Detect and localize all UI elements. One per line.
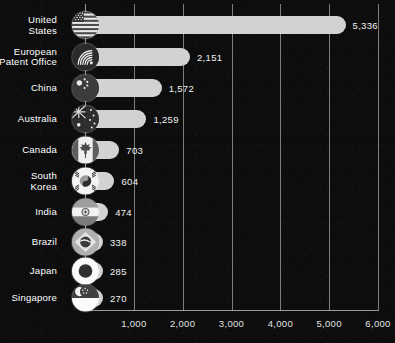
table-row: SouthKorea 604: [0, 166, 395, 196]
flag-japan-icon: [72, 258, 99, 285]
bar: [85, 48, 190, 66]
table-row: Japan 285: [0, 256, 395, 286]
table-row: UnitedStates 5,336: [0, 10, 395, 40]
flag-china-icon: [72, 75, 99, 102]
x-tick-label: 1,000: [121, 318, 146, 329]
flag-australia-icon: [72, 106, 99, 133]
table-row: Brazil 338: [0, 227, 395, 257]
value-label: 1,259: [153, 114, 178, 125]
x-tick-label: 2,000: [170, 318, 195, 329]
x-tick-label: 3,000: [219, 318, 244, 329]
flag-brazil-icon: [72, 229, 99, 256]
table-row: China 1,572: [0, 73, 395, 103]
category-label: SouthKorea: [0, 171, 57, 192]
value-label: 270: [110, 293, 127, 304]
value-label: 2,151: [197, 51, 222, 62]
category-label: Brazil: [0, 237, 57, 248]
category-label: EuropeanPatent Office: [0, 46, 57, 67]
table-row: India 474: [0, 197, 395, 227]
horizontal-bar-chart: 1,0002,0003,0004,0005,0006,000 UnitedSta…: [0, 0, 395, 343]
flag-united-states-icon: [72, 12, 99, 39]
category-label: Japan: [0, 266, 57, 277]
x-tick-label: 6,000: [365, 318, 390, 329]
table-row: Singapore 270: [0, 283, 395, 313]
category-label: India: [0, 207, 57, 218]
logo-european-patent-office-icon: [72, 43, 99, 70]
x-tick-label: 4,000: [268, 318, 293, 329]
category-label: UnitedStates: [0, 15, 57, 36]
flag-singapore-icon: [72, 285, 99, 312]
value-label: 5,336: [353, 20, 378, 31]
value-label: 285: [110, 266, 127, 277]
flag-india-icon: [72, 199, 99, 226]
x-tick-label: 5,000: [317, 318, 342, 329]
category-label: Australia: [0, 114, 57, 125]
bar: [85, 16, 346, 34]
category-label: Canada: [0, 145, 57, 156]
value-label: 338: [110, 237, 127, 248]
category-label: Singapore: [0, 293, 57, 304]
flag-canada-icon: [72, 137, 99, 164]
value-label: 1,572: [169, 83, 194, 94]
value-label: 474: [115, 207, 132, 218]
table-row: Canada 703: [0, 135, 395, 165]
category-label: China: [0, 83, 57, 94]
table-row: EuropeanPatent Office 2,151: [0, 42, 395, 72]
flag-south-korea-icon: [72, 168, 99, 195]
value-label: 703: [126, 145, 143, 156]
value-label: 604: [121, 176, 138, 187]
table-row: Australia 1,259: [0, 104, 395, 134]
